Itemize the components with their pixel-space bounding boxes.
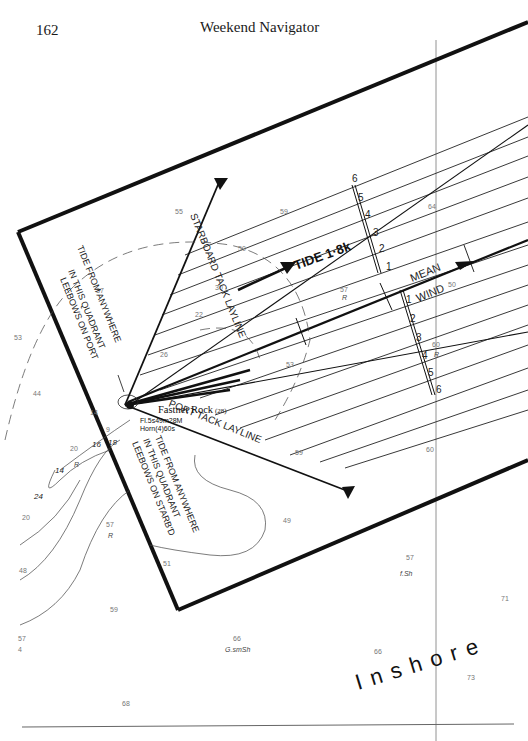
svg-text:44: 44 — [33, 390, 41, 397]
svg-text:3: 3 — [416, 332, 422, 343]
svg-text:59: 59 — [280, 208, 288, 215]
svg-text:2: 2 — [379, 243, 385, 254]
tide-arrow — [238, 266, 290, 290]
svg-text:49: 49 — [283, 517, 291, 524]
svg-text:55: 55 — [175, 208, 183, 215]
svg-text:50: 50 — [238, 245, 246, 252]
tide-note-port: TIDE FROM ANYWHERE IN THIS QUADRANT LEEB… — [58, 244, 123, 362]
svg-text:6: 6 — [352, 173, 358, 184]
svg-text:1: 1 — [406, 294, 412, 305]
svg-text:57: 57 — [106, 521, 114, 528]
fog-signal: Horn(4)60s — [140, 425, 176, 433]
scale-upper-numbers: 6 5 4 3 2 1 — [352, 173, 392, 272]
svg-text:4: 4 — [365, 209, 371, 220]
svg-text:22: 22 — [195, 311, 203, 318]
svg-text:26: 26 — [160, 351, 168, 358]
svg-text:9: 9 — [106, 426, 110, 433]
svg-text:48: 48 — [19, 567, 27, 574]
svg-text:68: 68 — [122, 700, 130, 707]
svg-text:6: 6 — [436, 384, 442, 395]
svg-text:53: 53 — [286, 361, 294, 368]
svg-text:16: 16 — [92, 440, 101, 449]
seabed-labels: R R R f.Sh G.smSh R — [74, 294, 439, 653]
svg-text:5: 5 — [428, 367, 434, 378]
bottom-rule — [22, 724, 514, 727]
svg-text:59: 59 — [110, 606, 118, 613]
course-line — [130, 332, 528, 405]
svg-text:18: 18 — [108, 438, 117, 447]
svg-text:24: 24 — [33, 492, 43, 501]
svg-text:R: R — [108, 532, 113, 539]
svg-text:14: 14 — [90, 409, 98, 416]
svg-text:R: R — [342, 294, 347, 301]
svg-text:64: 64 — [428, 203, 436, 210]
svg-text:50: 50 — [448, 281, 456, 288]
landmark-height: (28) — [215, 407, 227, 415]
svg-text:20: 20 — [70, 445, 78, 452]
svg-text:4: 4 — [18, 646, 22, 653]
area-label-inshore: Inshore — [352, 631, 490, 695]
svg-text:53: 53 — [14, 334, 22, 341]
svg-text:14: 14 — [55, 466, 64, 475]
light-characteristic: Fl.5s49m28M — [140, 417, 183, 424]
svg-text:G.smSh: G.smSh — [225, 646, 250, 653]
svg-text:71: 71 — [501, 595, 509, 602]
svg-text:57: 57 — [340, 286, 348, 293]
svg-text:1: 1 — [386, 261, 392, 272]
landmark-name: Fastnet Rock — [158, 404, 214, 415]
note-arrow — [118, 375, 124, 392]
svg-text:2: 2 — [410, 313, 416, 324]
svg-text:59: 59 — [295, 449, 303, 456]
svg-text:R: R — [74, 461, 79, 468]
svg-text:57: 57 — [18, 635, 26, 642]
svg-text:73: 73 — [467, 674, 475, 681]
svg-text:51: 51 — [163, 560, 171, 567]
nautical-chart-diagram: 55 59 64 50 30 22 26 57 50 53 60 59 60 4… — [0, 0, 528, 741]
svg-text:60: 60 — [426, 446, 434, 453]
port-layline-arrowhead — [342, 486, 355, 499]
starboard-layline-label: STARBOARD TACK LAYLINE — [188, 212, 248, 340]
tide-rate-label: TIDE 1·8k — [292, 238, 354, 273]
mean-wind-label: MEAN — [408, 261, 442, 284]
svg-text:f.Sh: f.Sh — [400, 570, 413, 577]
svg-text:5: 5 — [358, 192, 364, 203]
svg-text:66: 66 — [233, 635, 241, 642]
svg-text:20: 20 — [22, 514, 30, 521]
svg-text:60: 60 — [432, 341, 440, 348]
svg-text:57: 57 — [406, 554, 414, 561]
svg-text:4: 4 — [422, 350, 428, 361]
svg-text:3: 3 — [373, 227, 379, 238]
svg-text:66: 66 — [374, 648, 382, 655]
svg-text:R: R — [434, 351, 439, 358]
